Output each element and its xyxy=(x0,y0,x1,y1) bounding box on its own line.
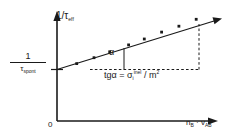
slope-formula: tgα = σiinel / m2 xyxy=(104,71,159,80)
data-point xyxy=(160,31,163,34)
y-axis-label: 1/τeff xyxy=(56,11,74,21)
data-point xyxy=(195,18,198,21)
intercept-denominator: τspont xyxy=(8,64,48,73)
x-axis-label-subscript: B xyxy=(190,122,193,128)
x-axis-label-mid: · v xyxy=(194,118,205,127)
y-intercept-label: 1 τspont xyxy=(8,52,48,73)
formula-lhs: tgα = σ xyxy=(104,70,133,80)
scientific-figure: 1/τeff 1 τspont α tgα = σiinel / m2 0 nB… xyxy=(0,0,232,139)
x-axis-label-subscript-2: AB xyxy=(205,122,212,128)
data-point xyxy=(143,38,146,41)
y-axis-label-main: 1/τ xyxy=(56,10,68,21)
data-point xyxy=(93,56,96,59)
angle-alpha-label: α xyxy=(109,48,114,57)
fit-line-arrowhead xyxy=(213,17,223,24)
data-point xyxy=(75,62,78,65)
intercept-denominator-subscript: spont xyxy=(23,68,35,74)
origin-label: 0 xyxy=(48,121,52,129)
data-point-group xyxy=(75,18,197,65)
formula-rhs-superscript: 2 xyxy=(156,69,159,75)
data-point xyxy=(127,44,130,47)
fraction-bar xyxy=(10,62,46,63)
y-axis-label-subscript: eff xyxy=(68,16,73,22)
formula-superscript: inel xyxy=(134,69,142,75)
intercept-numerator: 1 xyxy=(8,52,48,62)
linear-fit-line xyxy=(57,21,214,70)
x-axis-label: nB · vAB xyxy=(186,119,212,127)
data-point xyxy=(178,25,181,28)
formula-subscript: i xyxy=(133,75,134,81)
formula-rhs: / m xyxy=(141,70,156,80)
